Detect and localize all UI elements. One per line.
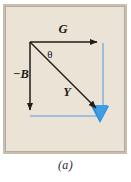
vector-g-label: G bbox=[58, 22, 67, 36]
vector-y-label: Y bbox=[63, 85, 72, 99]
angle-theta-label: θ bbox=[47, 48, 52, 60]
vector-diagram-svg: G −B Y θ bbox=[5, 6, 125, 152]
vector-minus-b-label: −B bbox=[13, 67, 29, 81]
resultant-blue-arrowhead bbox=[91, 105, 109, 123]
vector-diagram-figure: G −B Y θ (a) bbox=[0, 0, 131, 182]
figure-caption: (a) bbox=[0, 158, 131, 173]
